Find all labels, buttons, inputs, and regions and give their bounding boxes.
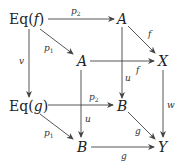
label-v: v bbox=[19, 56, 24, 66]
node-x: X bbox=[157, 53, 169, 69]
label-p2-top: p2 bbox=[71, 6, 81, 17]
node-eq-g: Eq(g) bbox=[9, 98, 48, 114]
node-a-top: A bbox=[115, 11, 127, 27]
node-b-mid: B bbox=[116, 98, 127, 114]
node-b-bot: B bbox=[76, 139, 87, 155]
label-p1-top: p1 bbox=[44, 43, 54, 54]
label-p2-bot: p2 bbox=[89, 92, 99, 103]
node-eq-f: Eq(f) bbox=[9, 11, 44, 27]
label-u-top: u bbox=[125, 73, 131, 83]
label-g-horiz: g bbox=[121, 151, 127, 161]
label-g-diag: g bbox=[135, 126, 141, 136]
label-u-mid: u bbox=[85, 114, 91, 124]
label-f-diag: f bbox=[147, 29, 153, 39]
node-a-mid: A bbox=[75, 53, 87, 69]
commutative-diagram: Eq(f) A A X Eq(g) B B Y p2 p1 v f u f u … bbox=[0, 0, 181, 162]
label-w: w bbox=[167, 100, 175, 110]
edge-b-mid-to-y bbox=[128, 112, 155, 139]
label-p1-bot: p1 bbox=[44, 128, 54, 139]
label-f-horiz: f bbox=[135, 65, 141, 75]
node-y: Y bbox=[158, 139, 169, 155]
